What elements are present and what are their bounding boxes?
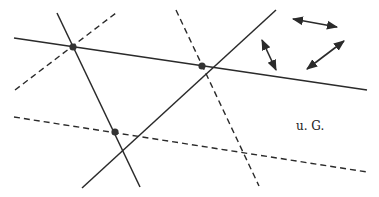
region-label: u. G. [296,119,324,133]
double-arrow-steep [262,40,276,70]
intersection-point-3 [111,128,118,135]
intersection-point-1 [69,43,76,50]
dashed-lines [14,10,367,186]
double-arrow-horizontal [293,19,337,27]
intersection-point-2 [198,62,205,69]
diagram-canvas [0,0,379,197]
intersection-points [69,43,205,135]
solid-lines [14,10,367,188]
direction-arrows [262,19,344,70]
solid-line-steep [57,13,140,187]
solid-line-rising [82,10,276,188]
double-arrow-diagonal [307,41,344,69]
